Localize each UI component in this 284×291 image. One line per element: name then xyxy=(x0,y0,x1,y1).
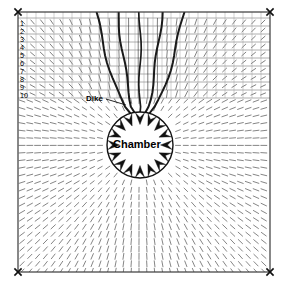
layer-number-10: 10 xyxy=(20,91,28,100)
model-cross-section xyxy=(0,0,284,291)
diagram-canvas: Chamber Dike 12345678910 xyxy=(0,0,284,291)
